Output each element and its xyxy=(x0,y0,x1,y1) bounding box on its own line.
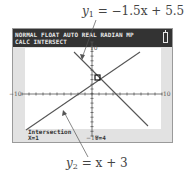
caption-y2-var: y xyxy=(66,156,73,170)
caption-y2-rhs: = x + 3 xyxy=(78,156,128,170)
xmax-label: 10 xyxy=(163,90,171,97)
leader-line-y2 xyxy=(64,112,88,157)
graph-overlay: −10 10 10 −10 xyxy=(0,0,184,176)
xmin-label: −10 xyxy=(9,90,22,97)
ymax-label: 10 xyxy=(90,44,98,51)
leader-arrow-y2 xyxy=(62,110,67,116)
equation-caption-y2: y2 = x + 3 xyxy=(66,156,128,171)
ymin-label: −10 xyxy=(86,134,99,141)
leader-line-y1 xyxy=(82,20,96,58)
line-y2 xyxy=(26,52,140,130)
y-axis xyxy=(91,42,94,136)
